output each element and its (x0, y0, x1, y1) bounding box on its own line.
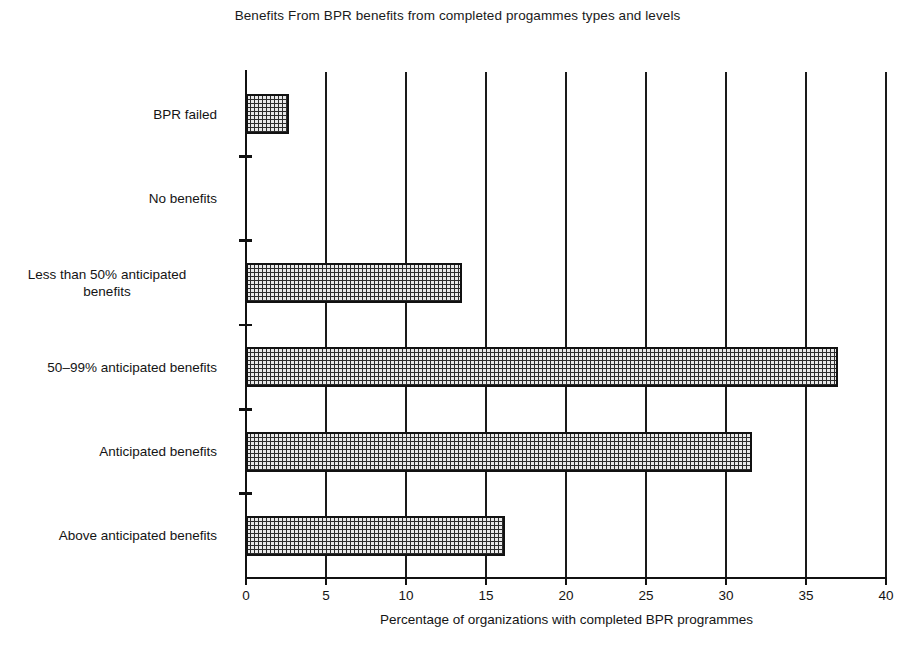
gridline-20 (565, 72, 567, 578)
x-tick-label: 10 (376, 588, 436, 603)
chart-title: Benefits From BPR benefits from complete… (0, 8, 915, 23)
bar (246, 432, 752, 472)
x-tick-label: 15 (456, 588, 516, 603)
chart-figure: Benefits From BPR benefits from complete… (0, 0, 915, 657)
category-label-line: No benefits (0, 190, 217, 207)
x-tick-label: 20 (536, 588, 596, 603)
x-tick-15 (485, 577, 487, 585)
x-axis-title: Percentage of organizations with complet… (246, 612, 887, 627)
category-label-line: Above anticipated benefits (0, 527, 217, 544)
x-tick-label: 40 (856, 588, 915, 603)
x-tick-label: 25 (616, 588, 676, 603)
category-label: 50–99% anticipated benefits (0, 359, 230, 376)
x-tick-40 (885, 577, 887, 585)
x-tick-10 (405, 577, 407, 585)
x-tick-label: 30 (696, 588, 756, 603)
category-label-line: Anticipated benefits (0, 443, 217, 460)
y-tick (239, 155, 252, 158)
x-tick-label: 35 (776, 588, 836, 603)
x-tick-35 (805, 577, 807, 585)
gridline-25 (645, 72, 647, 578)
x-tick-0 (245, 577, 247, 585)
category-label: Above anticipated benefits (0, 527, 230, 544)
y-tick (239, 239, 252, 242)
x-tick-25 (645, 577, 647, 585)
gridline-15 (485, 72, 487, 578)
y-tick (239, 492, 252, 495)
bar (246, 516, 505, 556)
gridline-5 (325, 72, 327, 578)
category-label-line: Less than 50% anticipated (0, 266, 214, 283)
x-tick-30 (725, 577, 727, 585)
category-label: No benefits (0, 190, 230, 207)
category-label: Anticipated benefits (0, 443, 230, 460)
y-tick (239, 324, 252, 327)
bar (246, 347, 838, 387)
gridline-35 (805, 72, 807, 578)
gridline-30 (725, 72, 727, 578)
plot-area (246, 72, 886, 578)
category-label-line: 50–99% anticipated benefits (0, 359, 217, 376)
x-tick-label: 0 (216, 588, 276, 603)
category-label: Less than 50% anticipatedbenefits (0, 266, 230, 300)
gridline-10 (405, 72, 407, 578)
x-tick-label: 5 (296, 588, 356, 603)
bar (246, 263, 462, 303)
category-label: BPR failed (0, 106, 230, 123)
gridline-40 (885, 72, 887, 578)
x-tick-20 (565, 577, 567, 585)
x-tick-5 (325, 577, 327, 585)
y-tick (239, 408, 252, 411)
category-label-line: BPR failed (0, 106, 217, 123)
category-label-line: benefits (0, 283, 214, 300)
bar (246, 94, 289, 134)
